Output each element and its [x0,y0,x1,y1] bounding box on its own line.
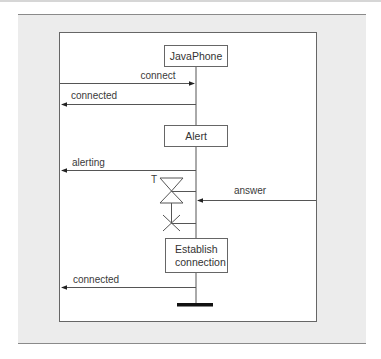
lifeline-terminator [177,303,213,307]
state-establish-line1: Establish [175,243,218,255]
message-answer-label: answer [234,185,267,196]
message-alerting-label: alerting [72,157,105,168]
state-javaphone-label: JavaPhone [170,50,223,62]
message-connected-2-label: connected [73,274,119,285]
state-establish-connection: Establish connection [166,239,228,273]
state-alert: Alert [165,126,228,147]
message-connected-1-label: connected [71,90,117,101]
message-connect-label: connect [140,70,175,81]
state-javaphone: JavaPhone [165,46,228,67]
timer-label: T [151,174,157,185]
state-establish-line2: connection [175,256,226,268]
state-alert-label: Alert [185,130,207,142]
sequence-diagram: JavaPhone connect connected Alert alerti… [0,0,381,359]
